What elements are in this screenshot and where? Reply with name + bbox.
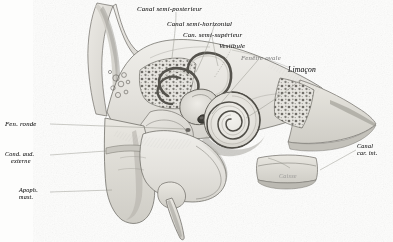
label-fenetre-ovale: Fenêtre ovale [241,54,281,61]
label-apoph-line1: Apoph. [19,186,38,193]
round-window [185,128,190,132]
label-cond-aud-externe: Cond. aud. externe [5,150,34,165]
label-canal-semi-posterieur: Canal semi-posterieur [137,5,202,12]
label-cond-aud-line2: externe [5,157,34,164]
label-canal-car-line2: car. int. [357,149,378,156]
label-fen-ronde: Fen. ronde [5,120,37,127]
label-apoph-mast: Apoph. mast. [19,186,38,201]
label-apoph-line2: mast. [19,193,38,200]
label-canal-car-line1: Canal [357,142,378,149]
anatomical-plate: Canal semi-posterieur Canal semi-horizon… [0,0,393,242]
label-limacon: Limaçon [288,66,316,74]
label-canal-semi-horizontal: Canal semi-horizontal [167,20,232,27]
label-cond-aud-line1: Cond. aud. [5,150,34,157]
label-caisse: Caisse [279,173,297,180]
label-vestibule: Vestibule [219,42,245,49]
label-can-semi-superieur: Can. semi-supérieur [183,31,242,38]
cochlea [204,92,260,148]
label-canal-car-int: Canal car. int. [357,142,378,157]
